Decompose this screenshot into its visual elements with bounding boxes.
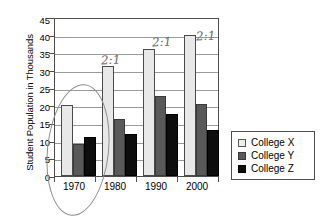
bar-1970-college-z <box>84 137 96 176</box>
bar-chart: Student Population in Thousands 0 5 10 1… <box>0 0 324 221</box>
y-tick-label-10: 10 <box>26 138 50 148</box>
bar-group-1980 <box>101 19 142 176</box>
legend-label-college-y: College Y <box>251 150 294 161</box>
bar-1970-college-y <box>73 144 84 176</box>
plot-area <box>54 18 219 177</box>
y-tick-label-45: 45 <box>26 16 50 26</box>
bar-1980-college-z <box>125 134 137 176</box>
y-tick-label-20: 20 <box>26 103 50 113</box>
handwritten-ratio-annotation-1990: 2:1 <box>152 35 172 50</box>
bar-1980-college-x <box>102 66 114 176</box>
legend-item-college-y: College Y <box>238 149 309 162</box>
handwritten-ratio-annotation-2000: 2:1 <box>196 29 216 44</box>
black-square-icon <box>238 165 246 173</box>
x-tick-label-2000: 2000 <box>174 181 220 192</box>
x-tick-label-1980: 1980 <box>92 181 138 192</box>
medium-gray-square-icon <box>238 152 246 160</box>
legend-label-college-z: College Z <box>251 163 294 174</box>
legend-label-college-x: College X <box>251 137 294 148</box>
y-tick-label-0: 0 <box>26 173 50 183</box>
x-tick-label-1990: 1990 <box>133 181 179 192</box>
bar-1970-college-x <box>61 105 73 176</box>
light-gray-square-icon <box>238 139 246 147</box>
bar-2000-college-z <box>207 130 219 176</box>
bar-2000-college-x <box>184 35 196 176</box>
y-tick-label-5: 5 <box>26 155 50 165</box>
y-tick-label-25: 25 <box>26 85 50 95</box>
legend-item-college-x: College X <box>238 136 309 149</box>
y-tick-label-35: 35 <box>26 50 50 60</box>
bar-group-1970 <box>60 19 101 176</box>
y-tick-label-30: 30 <box>26 68 50 78</box>
bar-2000-college-y <box>196 104 207 177</box>
y-tick-label-40: 40 <box>26 33 50 43</box>
y-tick-label-15: 15 <box>26 120 50 130</box>
legend-item-college-z: College Z <box>238 162 309 175</box>
x-tick-label-1970: 1970 <box>51 181 97 192</box>
bar-1990-college-z <box>166 114 178 176</box>
bar-1990-college-x <box>143 49 155 176</box>
bar-1990-college-y <box>155 96 166 176</box>
bar-1980-college-y <box>114 119 125 176</box>
handwritten-ratio-annotation-1980: 2:1 <box>101 53 121 68</box>
legend: College X College Y College Z <box>231 131 315 180</box>
